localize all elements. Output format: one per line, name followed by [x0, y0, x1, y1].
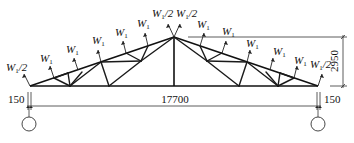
left-column-circle: [22, 117, 36, 131]
right-column-circle: [311, 117, 325, 131]
load-label-L6: W1/2: [152, 7, 174, 21]
right-offset-label: 150: [324, 93, 341, 105]
span-dimension: 17700 150 150: [8, 92, 341, 110]
load-label-L8: W1: [197, 18, 210, 32]
height-dimension-label: 2950: [328, 50, 340, 73]
span-dimension-label: 17700: [161, 93, 189, 105]
left-support: [22, 106, 36, 131]
load-label-L2: W1: [66, 43, 79, 57]
truss-diagram: W1/2 W1 W1 W1 W1 W1 W1/2 W1/2 W1 W1 W1 W…: [0, 0, 354, 143]
load-label-L0: W1/2: [6, 61, 28, 75]
load-label-L1: W1: [40, 52, 53, 66]
load-label-L5: W1: [137, 17, 150, 31]
load-label-L3: W1: [92, 34, 105, 48]
load-label-L7: W1/2: [176, 7, 198, 21]
load-label-L10: W1: [246, 37, 259, 51]
load-label-L4: W1: [115, 26, 128, 40]
left-offset-label: 150: [8, 93, 25, 105]
right-support: [311, 106, 325, 131]
load-label-L12: W1: [294, 54, 307, 68]
load-label-L11: W1: [273, 45, 286, 59]
